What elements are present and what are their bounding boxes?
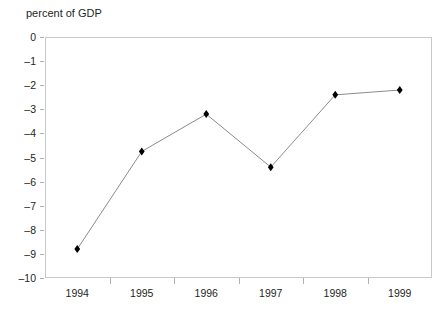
y-axis-tick-mark: [40, 133, 44, 134]
y-axis-tick-mark: [40, 37, 44, 38]
x-axis-tick-label: 1996: [195, 288, 218, 299]
x-axis-tick-mark: [174, 278, 175, 284]
y-axis-tick-label: –7: [0, 201, 36, 212]
y-axis-tick-label: –10: [0, 273, 36, 284]
data-point-marker: [397, 86, 403, 94]
y-axis-tick-label: –9: [0, 249, 36, 260]
x-axis-tick-label: 1994: [66, 288, 89, 299]
series-line: [77, 90, 400, 249]
y-axis-tick-label: –6: [0, 177, 36, 188]
y-axis-tick-mark: [40, 206, 44, 207]
y-axis-tick-mark: [40, 109, 44, 110]
y-axis-tick-mark: [40, 85, 44, 86]
y-axis-tick-mark: [40, 182, 44, 183]
y-axis-tick-label: –4: [0, 128, 36, 139]
y-axis-tick-label: –3: [0, 104, 36, 115]
x-axis-tick-label: 1997: [259, 288, 282, 299]
y-axis-tick-mark: [40, 254, 44, 255]
y-axis-tick-label: –2: [0, 80, 36, 91]
data-point-marker: [203, 110, 209, 118]
plot-series-layer: [45, 37, 432, 278]
x-axis-tick-label: 1999: [388, 288, 411, 299]
y-axis-tick-mark: [40, 278, 44, 279]
series-markers: [74, 86, 402, 253]
x-axis-tick-label: 1998: [324, 288, 347, 299]
chart-title: percent of GDP: [26, 7, 102, 20]
y-axis-tick-mark: [40, 158, 44, 159]
y-axis-tick-label: –8: [0, 225, 36, 236]
y-axis-tick-label: –1: [0, 56, 36, 67]
x-axis-tick-mark: [303, 278, 304, 284]
chart-figure: percent of GDP 0–1–2–3–4–5–6–7–8–9–10 19…: [0, 0, 445, 317]
x-axis-tick-mark: [239, 278, 240, 284]
y-axis-tick-mark: [40, 61, 44, 62]
y-axis-tick-mark: [40, 230, 44, 231]
y-axis-tick-label: –5: [0, 153, 36, 164]
x-axis-tick-mark: [110, 278, 111, 284]
y-axis-tick-label: 0: [0, 32, 36, 43]
x-axis-tick-mark: [368, 278, 369, 284]
x-axis-tick-label: 1995: [130, 288, 153, 299]
